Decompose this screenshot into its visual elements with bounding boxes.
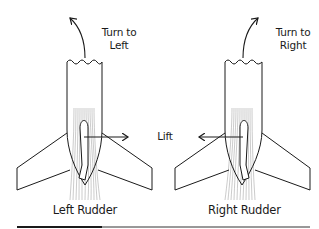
turn-right-label-line2: Right bbox=[272, 39, 314, 52]
turn-left-arrow-icon bbox=[70, 18, 85, 58]
turn-left-label: Turn to Left bbox=[98, 26, 140, 52]
turn-left-label-line2: Left bbox=[98, 39, 140, 52]
turn-left-label-line1: Turn to bbox=[98, 26, 140, 39]
left-fuselage-break-edge bbox=[67, 60, 102, 64]
left-fin-left bbox=[17, 133, 70, 190]
turn-right-label-line1: Turn to bbox=[272, 26, 314, 39]
right-rudder bbox=[240, 121, 249, 181]
right-rudder-caption: Right Rudder bbox=[208, 203, 280, 217]
left-rudder-caption: Left Rudder bbox=[52, 203, 118, 217]
left-fin-right bbox=[98, 133, 152, 190]
right-fuselage-break-edge bbox=[225, 60, 262, 64]
right-fin-left bbox=[175, 133, 229, 190]
turn-right-label: Turn to Right bbox=[272, 26, 314, 52]
left-rudder bbox=[79, 121, 88, 181]
turn-right-arrow-icon bbox=[243, 18, 258, 58]
right-fin-right bbox=[255, 133, 310, 190]
lift-label: Lift bbox=[148, 130, 182, 143]
